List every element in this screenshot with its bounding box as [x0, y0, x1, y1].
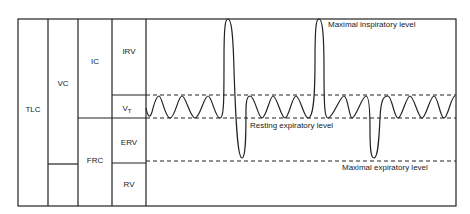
annotation-max-inspiratory: Maximal inspiratory level — [328, 20, 416, 29]
lung-volumes-diagram: TLC VC IC FRC IRV VT ERV RV Maximal insp… — [0, 0, 470, 214]
label-erv: ERV — [121, 138, 138, 147]
annotation-resting-expiratory: Resting expiratory level — [250, 121, 333, 130]
label-vc: VC — [57, 79, 68, 88]
label-vt: VT — [122, 104, 131, 114]
label-frc: FRC — [87, 156, 104, 165]
spirometry-trace — [146, 19, 455, 158]
label-rv: RV — [124, 180, 136, 189]
label-tlc: TLC — [25, 105, 40, 114]
outer-frame — [18, 19, 456, 206]
label-irv: IRV — [122, 47, 136, 56]
annotation-max-expiratory: Maximal expiratory level — [342, 163, 428, 172]
label-ic: IC — [91, 57, 99, 66]
